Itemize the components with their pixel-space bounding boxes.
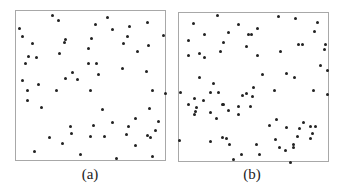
data-point (203, 33, 206, 36)
data-point (256, 54, 259, 57)
data-point (237, 105, 240, 108)
data-point (76, 78, 79, 81)
data-point (277, 15, 280, 18)
data-point (202, 99, 205, 102)
panel-b-caption: (b) (222, 166, 282, 183)
data-point (122, 42, 125, 45)
data-point (21, 35, 24, 38)
data-point (251, 95, 254, 98)
data-point (121, 67, 124, 70)
data-point (179, 91, 182, 94)
data-point (162, 34, 165, 37)
data-point (285, 72, 288, 75)
data-point (63, 41, 66, 44)
data-point (61, 142, 64, 145)
data-point (157, 120, 160, 123)
data-point (268, 124, 271, 127)
data-point (146, 21, 149, 24)
data-point (314, 125, 317, 128)
data-point (209, 140, 212, 143)
data-point (193, 113, 196, 116)
data-point (151, 155, 154, 158)
data-point (193, 97, 196, 100)
panel-a-caption: (a) (60, 166, 120, 183)
data-point (217, 91, 220, 94)
data-point (55, 89, 58, 92)
data-point (326, 93, 329, 96)
data-point (187, 103, 190, 106)
data-point (215, 117, 218, 120)
data-point (293, 76, 296, 79)
data-point (237, 113, 240, 116)
data-point (309, 137, 312, 140)
data-point (128, 25, 131, 28)
data-point (95, 62, 98, 65)
panel-a-frame (15, 10, 166, 161)
data-point (69, 125, 72, 128)
data-point (312, 89, 315, 92)
data-point (187, 54, 190, 57)
data-point (87, 62, 90, 65)
data-point (245, 45, 248, 48)
data-point (292, 146, 295, 149)
data-point (278, 146, 281, 149)
data-point (249, 105, 252, 108)
data-point (324, 43, 327, 46)
data-point (27, 55, 30, 58)
data-point (232, 158, 235, 161)
data-point (301, 43, 304, 46)
data-point (216, 14, 219, 17)
data-point (148, 107, 151, 110)
data-point (241, 94, 244, 97)
data-point (309, 125, 312, 128)
data-point (326, 69, 329, 72)
data-point (89, 89, 92, 92)
data-point (323, 48, 326, 51)
data-point (228, 143, 231, 146)
data-point (294, 17, 297, 20)
data-point (154, 129, 157, 132)
data-point (302, 121, 305, 124)
data-point (198, 76, 201, 79)
data-point (279, 50, 282, 53)
data-point (125, 133, 128, 136)
data-point (256, 27, 259, 30)
data-point (103, 135, 106, 138)
data-point (79, 153, 82, 156)
data-point (146, 134, 149, 137)
data-point (222, 41, 225, 44)
data-point (51, 14, 54, 17)
data-point (94, 23, 97, 26)
data-point (48, 136, 51, 139)
data-point (245, 92, 248, 95)
data-point (134, 144, 137, 147)
data-point (203, 56, 206, 59)
data-point (178, 139, 181, 142)
data-point (261, 73, 264, 76)
data-point (313, 30, 316, 33)
data-point (127, 125, 130, 128)
data-point (258, 153, 261, 156)
data-point (106, 16, 109, 19)
data-point (136, 50, 139, 53)
data-point (195, 106, 198, 109)
data-point (192, 22, 195, 25)
data-point (26, 99, 29, 102)
data-point (58, 52, 61, 55)
data-point (274, 138, 277, 141)
data-point (101, 108, 104, 111)
data-point (198, 52, 201, 55)
data-point (237, 23, 240, 26)
data-point (212, 82, 215, 85)
data-point (275, 118, 278, 121)
data-point (145, 70, 148, 73)
data-point (222, 103, 225, 106)
data-point (187, 39, 190, 42)
data-point (298, 127, 301, 130)
data-point (71, 71, 74, 74)
data-point (57, 19, 60, 22)
data-point (37, 83, 40, 86)
data-point (70, 132, 73, 135)
data-point (221, 136, 224, 139)
data-point (316, 21, 319, 24)
